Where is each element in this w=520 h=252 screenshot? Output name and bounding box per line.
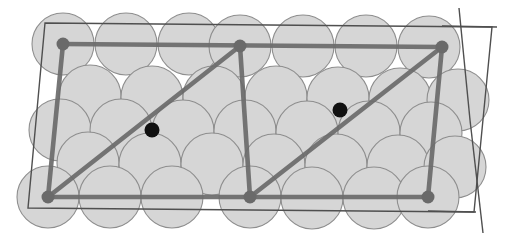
lattice-diagram-canvas [0,0,520,252]
bottom-horizontal-extension [428,211,476,212]
node-top-right [436,41,449,54]
interior-node-left [145,123,160,138]
node-bottom-right [422,191,435,204]
node-top-left [57,38,70,51]
a-top-edge [63,44,442,47]
node-top-middle [234,40,247,53]
interior-node-right [333,103,348,118]
top-horizontal-extension [442,26,497,27]
lattice-figure [0,0,520,252]
node-bottom-left [42,191,55,204]
node-bottom-middle [244,191,257,204]
